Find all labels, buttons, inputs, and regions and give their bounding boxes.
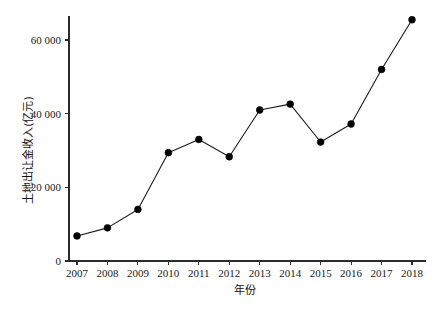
x-axis-tick-group: 2007200820092010201120122013201420152016… xyxy=(66,261,424,279)
x-axis-title: 年份 xyxy=(234,283,256,297)
data-point xyxy=(226,153,233,160)
data-point xyxy=(409,16,416,23)
x-tick-label: 2013 xyxy=(249,267,272,279)
data-point xyxy=(195,136,202,143)
x-tick-label: 2015 xyxy=(310,267,333,279)
data-point xyxy=(256,107,263,114)
x-tick-label: 2014 xyxy=(279,267,302,279)
y-tick-label: 60 000 xyxy=(31,34,62,46)
data-point xyxy=(135,206,142,213)
x-tick-label: 2009 xyxy=(127,267,150,279)
x-tick-label: 2011 xyxy=(188,267,210,279)
data-point xyxy=(287,101,294,108)
x-tick-label: 2016 xyxy=(340,267,363,279)
data-point xyxy=(317,139,324,146)
data-point xyxy=(165,149,172,156)
data-point xyxy=(104,224,111,231)
x-tick-label: 2007 xyxy=(66,267,89,279)
data-point xyxy=(348,121,355,128)
line-chart: 020 00040 00060 000 20072008200920102011… xyxy=(0,0,437,311)
y-tick-label: 20 000 xyxy=(31,181,62,193)
data-series-line xyxy=(77,20,412,236)
data-point xyxy=(378,66,385,73)
x-tick-label: 2017 xyxy=(371,267,394,279)
y-tick-label: 40 000 xyxy=(31,108,62,120)
y-tick-label: 0 xyxy=(56,255,62,267)
x-tick-label: 2012 xyxy=(218,267,240,279)
x-tick-label: 2018 xyxy=(401,267,424,279)
data-point-group xyxy=(74,16,416,239)
data-point xyxy=(74,233,81,240)
figure-container: 020 00040 00060 000 20072008200920102011… xyxy=(0,0,437,311)
y-axis-tick-group: 020 00040 00060 000 xyxy=(31,34,69,267)
x-tick-label: 2010 xyxy=(157,267,180,279)
y-axis-title: 土地出让金收入(亿元) xyxy=(21,96,35,204)
x-tick-label: 2008 xyxy=(96,267,119,279)
